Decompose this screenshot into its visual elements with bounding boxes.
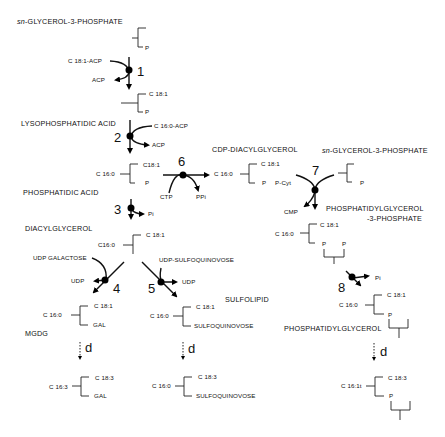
compound-sulfolipid: SULFOLIPID: [225, 295, 269, 304]
c160-acp-label: C 16:0-ACP: [154, 122, 188, 129]
molecule-pgp: C 16:0 C 18:1 P P: [275, 221, 346, 264]
molecule-pa: C 16:0 C18:1 P: [96, 161, 160, 186]
molecule-sulfolipid: C 16:0 C 18:1 SULFOQUINOVOSE: [150, 303, 254, 329]
svg-text:C 18:3: C 18:3: [388, 374, 407, 381]
svg-text:C 16:0: C 16:0: [43, 311, 62, 318]
step-4-reaction: UDP GALACTOSE UDP 4: [33, 254, 124, 296]
svg-text:P: P: [262, 179, 266, 186]
enzyme-node-7: [312, 187, 319, 194]
desaturation-pg: d: [372, 343, 387, 361]
svg-text:GAL: GAL: [94, 392, 107, 399]
acp-label-2: ACP: [152, 141, 165, 148]
ctp-label: CTP: [160, 193, 173, 200]
svg-text:C 18:3: C 18:3: [95, 374, 114, 381]
enzyme-node-4: [102, 277, 109, 284]
step-8-reaction: 8 Pi: [338, 271, 381, 295]
molecule-mgdg: C 16:0 C 18:1 GAL: [43, 302, 113, 328]
molecule-sulfolipid-desaturated: C 16:0 C 18:3 SULFOQUINOVOSE: [152, 373, 256, 399]
svg-text:C 16:0: C 16:0: [275, 230, 294, 237]
molecule-lpa: C 18:1 P: [121, 90, 168, 115]
c181-acp-label: C 18:1-ACP: [68, 57, 102, 64]
molecule-g3p-right: P: [338, 164, 364, 186]
compound-pa: PHOSPHATIDIC ACID: [23, 188, 99, 197]
svg-text:P: P: [388, 311, 392, 318]
svg-text:C 18:1: C 18:1: [261, 160, 280, 167]
svg-text:C 18:1: C 18:1: [146, 231, 165, 238]
step-number-3: 3: [114, 202, 121, 217]
compound-mgdg: MGDG: [25, 329, 48, 338]
svg-text:C 16:0: C 16:0: [96, 170, 115, 177]
g3p-phosphate: P: [145, 44, 149, 51]
svg-text:C 16:0: C 16:0: [214, 170, 233, 177]
enzyme-node-1: [126, 67, 133, 74]
step-number-2: 2: [114, 130, 121, 145]
desaturation-sulfolipid: d: [181, 341, 195, 360]
step-1-reaction: C 18:1-ACP ACP 1: [68, 57, 144, 88]
svg-text:C 16:3: C 16:3: [49, 383, 68, 390]
svg-text:C 18:1: C 18:1: [94, 302, 113, 309]
svg-text:C 18:1: C 18:1: [387, 291, 406, 298]
svg-text:SULFOQUINOVOSE: SULFOQUINOVOSE: [194, 322, 254, 329]
desaturation-mgdg: d: [78, 340, 92, 360]
molecule-mgdg-desaturated: C 16:3 C 18:3 GAL: [49, 374, 114, 399]
enzyme-node-8: [349, 274, 356, 281]
svg-text:C 18:1: C 18:1: [149, 90, 168, 97]
svg-text:C 16:0: C 16:0: [150, 312, 169, 319]
enzyme-node-6: [180, 172, 187, 179]
udp-galactose-label: UDP GALACTOSE: [33, 254, 87, 261]
svg-text:d: d: [380, 344, 387, 359]
compound-g3p-right: sn-GLYCEROL-3-PHOSPHATE: [322, 146, 428, 155]
compound-cdp-dag: CDP-DIACYLGLYCEROL: [212, 145, 298, 154]
svg-text:C18:1: C18:1: [143, 161, 160, 168]
svg-text:C 18:3: C 18:3: [198, 373, 217, 380]
ppi-label: PPi: [196, 193, 206, 200]
molecule-pg-desaturated: C 16:1t C 18:3 P: [341, 374, 410, 420]
compound-pg: PHOSPHATIDYLGLYCEROL: [284, 324, 382, 333]
svg-text:C16:0: C16:0: [98, 241, 115, 248]
molecule-dag: C16:0 C 18:1: [98, 231, 165, 254]
cmp-label: CMP: [284, 208, 298, 215]
svg-text:SULFOQUINOVOSE: SULFOQUINOVOSE: [196, 392, 256, 399]
udp-label-5: UDP: [182, 278, 195, 285]
step-6-reaction: 6 CTP PPi: [160, 154, 208, 200]
svg-text:P: P: [389, 392, 393, 399]
udp-label-4: UDP: [71, 277, 84, 284]
step-2-reaction: C 16:0-ACP ACP 2: [114, 120, 188, 152]
svg-text:d: d: [188, 341, 195, 356]
step-number-7: 7: [312, 163, 319, 178]
svg-text:C 18:1: C 18:1: [196, 303, 215, 310]
molecule-cdp-dag: C 16:0 C 18:1 P P-Cyt: [214, 160, 291, 186]
compound-pgp: PHOSPHATIDYLGLYCEROL: [326, 204, 424, 213]
step-number-6: 6: [178, 154, 185, 169]
compound-g3p-top: sn-GLYCEROL-3-PHOSPHATE: [17, 17, 123, 26]
svg-text:P: P: [342, 240, 346, 247]
compound-lpa: LYSOPHOSPHATIDIC ACID: [21, 119, 116, 128]
svg-text:P: P: [145, 179, 149, 186]
svg-text:P: P: [322, 240, 326, 247]
step-number-8: 8: [338, 280, 345, 295]
svg-text:C 18:1: C 18:1: [320, 221, 339, 228]
udp-sulfoquinovose-label: UDP-SULFOQUINOVOSE: [159, 256, 234, 263]
step-5-reaction: UDP-SULFOQUINOVOSE UDP 5: [142, 256, 234, 296]
svg-text:C 16:0: C 16:0: [152, 382, 171, 389]
svg-text:P: P: [360, 179, 364, 186]
compound-pgp-line2: -3-PHOSPHATE: [367, 214, 422, 223]
acp-label-1: ACP: [92, 76, 105, 83]
step-3-reaction: 3 Pi: [114, 199, 154, 218]
svg-text:C 16:0: C 16:0: [339, 301, 358, 308]
svg-text:GAL: GAL: [93, 321, 106, 328]
pathway-diagram: sn-GLYCEROL-3-PHOSPHATE P C 18:1-ACP ACP…: [0, 0, 445, 437]
svg-text:P: P: [145, 108, 149, 115]
compound-dag: DIACYLGLYCEROL: [25, 224, 92, 233]
step-number-5: 5: [148, 281, 155, 296]
svg-text:d: d: [85, 340, 92, 355]
molecule-g3p: P: [132, 28, 149, 51]
pi-label-3: Pi: [148, 210, 154, 217]
enzyme-node-3: [128, 205, 135, 212]
step-number-4: 4: [113, 281, 120, 296]
p-cyt-label: P-Cyt: [275, 179, 291, 186]
enzyme-node-2: [127, 133, 134, 140]
enzyme-node-5: [158, 279, 165, 286]
step-number-1: 1: [137, 64, 144, 79]
svg-text:C 16:1t: C 16:1t: [341, 382, 362, 389]
